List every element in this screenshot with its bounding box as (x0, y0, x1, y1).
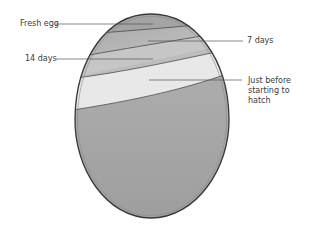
label-fresh-egg: Fresh egg (20, 19, 59, 29)
label-7-days: 7 days (247, 36, 274, 46)
label-just-before-hatch: Just before starting to hatch (248, 76, 296, 106)
label-14-days: 14 days (25, 54, 57, 64)
egg-shell (60, 0, 250, 239)
